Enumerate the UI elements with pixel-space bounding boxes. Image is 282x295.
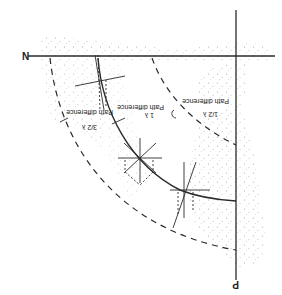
svg-text:Path difference: Path difference [182, 98, 229, 105]
svg-text:Path difference: Path difference [117, 104, 164, 111]
axis-label-p: P [232, 279, 239, 290]
svg-text:1 λ: 1 λ [144, 112, 154, 119]
svg-text:1/2 λ: 1/2 λ [202, 111, 218, 118]
svg-text:3/2 λ: 3/2 λ [81, 124, 97, 131]
axis-label-n: N [22, 50, 29, 61]
path-difference-diagram: N P Path difference 1/2 λ Path differenc… [0, 0, 282, 295]
svg-text:Path difference: Path difference [66, 109, 113, 116]
